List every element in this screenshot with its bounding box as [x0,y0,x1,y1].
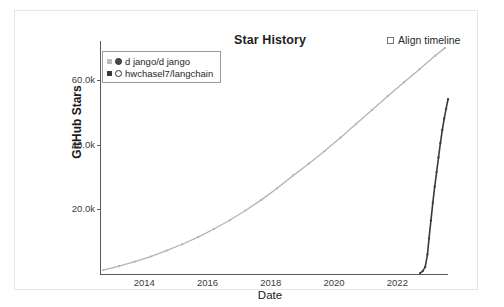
series-point [441,129,443,131]
series-point [419,272,421,274]
series-point [244,209,246,211]
series-point [229,219,231,221]
series-point [435,171,437,173]
series-point [403,81,405,83]
series-point [118,265,120,267]
x-tick-label: 2014 [124,277,164,288]
legend-marker-icon [115,58,122,65]
legend-marker-icon [115,70,122,77]
series-point [444,47,446,49]
x-tick-label: 2022 [377,277,417,288]
legend-label: d jango/d jango [125,56,190,67]
series-point [426,253,428,255]
series-point [181,243,183,245]
series-point [134,261,136,263]
series-point [165,250,167,252]
y-tick-label: 40.0k [53,139,95,150]
legend-swatch-icon [107,71,112,76]
series-point [371,109,373,111]
series-point [424,266,426,268]
series-point [149,255,151,257]
legend-swatch-icon [107,59,112,64]
screenshot-root: Star History Align timeline GitHub Stars… [0,0,504,307]
legend-label: hwchasel7/langchain [125,68,213,79]
y-tick-mark [97,209,101,210]
series-point [308,163,310,165]
series-point [323,150,325,152]
chart-card: Star History Align timeline GitHub Stars… [14,10,478,290]
legend: d jango/d jangohwchasel7/langchain [102,51,221,83]
series-point [430,219,432,221]
series-point [437,156,439,158]
y-tick-label: 60.0k [53,74,95,85]
series-point [102,269,104,271]
legend-item[interactable]: d jango/d jango [107,55,213,67]
x-tick-label: 2016 [188,277,228,288]
x-axis-title: Date [210,289,330,301]
series-point [434,54,436,56]
x-tick-label: 2018 [251,277,291,288]
series-point [355,123,357,125]
series-point [276,187,278,189]
y-tick-mark [97,145,101,146]
series-point [447,98,449,100]
series-point [418,68,420,70]
y-tick-label: 20.0k [53,203,95,214]
series-point [292,174,294,176]
series-point [439,142,441,144]
x-tick-label: 2020 [314,277,354,288]
series-point [443,118,445,120]
series-point [213,228,215,230]
series-point [428,237,430,239]
series-point [339,137,341,139]
series-point [445,108,447,110]
series-point [422,270,424,272]
legend-item[interactable]: hwchasel7/langchain [107,67,213,79]
series-point [260,199,262,201]
series-point [432,202,434,204]
series-point [434,185,436,187]
x-axis-line [100,274,448,275]
series-point [197,236,199,238]
y-tick-mark [97,80,101,81]
series-point [387,95,389,97]
